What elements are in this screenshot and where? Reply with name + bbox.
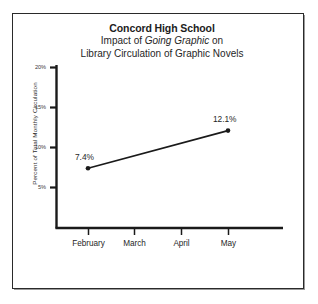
plot-area — [0, 0, 318, 304]
y-tick-label-5: 5% — [26, 184, 46, 190]
y-tick-label-10: 10% — [26, 144, 46, 150]
data-label-february: 7.4% — [75, 152, 94, 162]
y-tick-label-20: 20% — [26, 64, 46, 70]
data-point-february — [86, 166, 91, 171]
chart-figure: Concord High School Impact of Going Grap… — [0, 0, 318, 304]
data-label-may: 12.1% — [213, 114, 237, 124]
x-tick-label-may: May — [199, 239, 259, 248]
data-line-series-1 — [88, 131, 228, 169]
y-tick-label-15: 15% — [26, 104, 46, 110]
data-point-may — [226, 128, 231, 133]
